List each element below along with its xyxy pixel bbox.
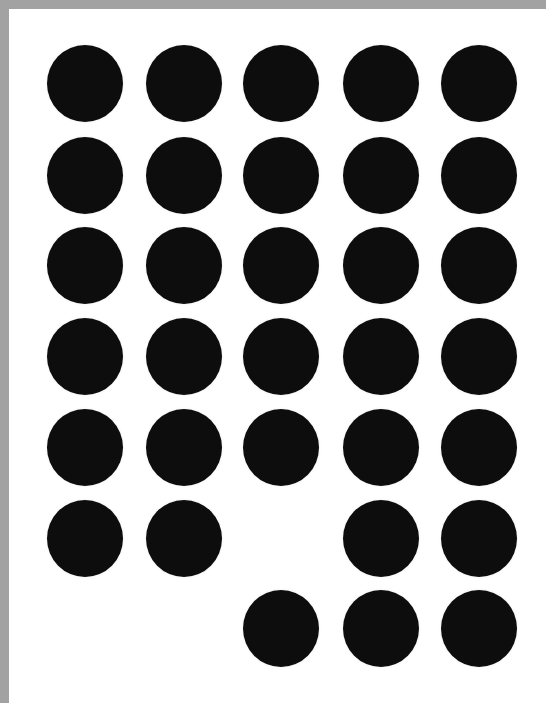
dot-r5-c4 [343,409,419,486]
dot-r3-c2 [146,227,222,304]
dot-r6-c5 [441,500,517,577]
dot-r2-c3 [243,137,319,214]
dot-r7-c5 [441,590,517,667]
dot-r6-c4 [343,500,419,577]
dot-r2-c2 [146,137,222,214]
dot-r1-c3 [243,45,319,122]
dot-r1-c5 [441,45,517,122]
dot-r1-c1 [47,45,123,122]
dot-r5-c2 [146,409,222,486]
dot-r4-c5 [441,318,517,395]
dot-r4-c3 [243,318,319,395]
page-frame [0,0,546,703]
dot-r1-c4 [343,45,419,122]
dot-r6-c1 [47,500,123,577]
dot-r3-c5 [441,227,517,304]
dot-r5-c5 [441,409,517,486]
dot-r3-c3 [243,227,319,304]
dot-r2-c4 [343,137,419,214]
dot-r5-c3 [243,409,319,486]
dot-r6-c2 [146,500,222,577]
dot-r4-c4 [343,318,419,395]
dot-r2-c1 [47,137,123,214]
dot-r2-c5 [441,137,517,214]
dot-r7-c3 [243,590,319,667]
dot-r4-c1 [47,318,123,395]
dot-r3-c4 [343,227,419,304]
dot-r7-c4 [343,590,419,667]
dot-r4-c2 [146,318,222,395]
dot-r1-c2 [146,45,222,122]
dot-r5-c1 [47,409,123,486]
dot-r3-c1 [47,227,123,304]
